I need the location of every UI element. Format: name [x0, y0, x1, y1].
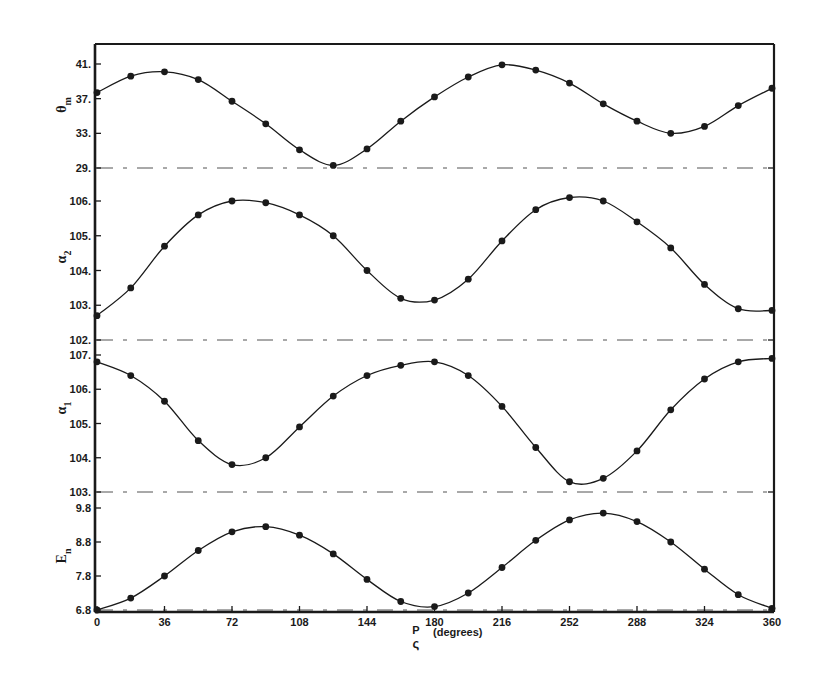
data-point	[701, 376, 708, 383]
data-point	[735, 305, 742, 312]
data-point	[667, 130, 674, 137]
y-tick-label: 106.	[70, 383, 91, 395]
data-point	[431, 94, 438, 101]
data-point	[600, 475, 607, 482]
x-axis-unit: (degrees)	[433, 626, 483, 638]
data-point	[532, 67, 539, 74]
data-point	[94, 89, 101, 96]
stacked-line-chart: 41.37.33.29.θm106.105.104.103.102.α2107.…	[0, 0, 827, 673]
y-tick-label: 103.	[70, 299, 91, 311]
data-point	[127, 73, 134, 80]
data-point	[600, 510, 607, 517]
y-tick-label: 105.	[70, 230, 91, 242]
data-point	[397, 295, 404, 302]
data-point	[735, 102, 742, 109]
data-point	[364, 372, 371, 379]
data-point	[229, 528, 236, 535]
data-point	[499, 403, 506, 410]
data-point	[330, 551, 337, 558]
data-point	[566, 478, 573, 485]
data-point	[634, 518, 641, 525]
data-point	[667, 406, 674, 413]
data-point	[195, 547, 202, 554]
data-point	[566, 194, 573, 201]
y-tick-label: 37.	[76, 93, 91, 105]
x-tick-label: 36	[158, 616, 170, 628]
data-point	[330, 393, 337, 400]
data-point	[364, 267, 371, 274]
data-point	[735, 591, 742, 598]
data-point	[364, 576, 371, 583]
data-point	[667, 245, 674, 252]
data-point	[195, 76, 202, 83]
data-point	[262, 199, 269, 206]
data-point	[127, 284, 134, 291]
x-tick-label: 288	[628, 616, 646, 628]
y-tick-label: 106.	[70, 195, 91, 207]
data-point	[532, 537, 539, 544]
data-point	[161, 243, 168, 250]
y-tick-label: 105.	[70, 418, 91, 430]
data-point	[431, 297, 438, 304]
y-tick-label: 104.	[70, 452, 91, 464]
data-point	[161, 573, 168, 580]
data-point	[532, 444, 539, 451]
data-point	[465, 74, 472, 81]
data-point	[161, 68, 168, 75]
data-point	[296, 532, 303, 539]
data-point	[127, 372, 134, 379]
data-point	[397, 362, 404, 369]
data-point	[701, 123, 708, 130]
data-point	[634, 118, 641, 125]
data-point	[296, 424, 303, 431]
data-point	[229, 98, 236, 105]
x-tick-label: 108	[290, 616, 308, 628]
data-point	[195, 437, 202, 444]
data-point	[600, 198, 607, 205]
data-point	[769, 307, 776, 314]
y-tick-label: 41.	[76, 58, 91, 70]
data-point	[262, 523, 269, 530]
data-point	[465, 276, 472, 283]
data-point	[397, 598, 404, 605]
data-point	[566, 80, 573, 87]
data-point	[94, 358, 101, 365]
data-point	[465, 590, 472, 597]
x-tick-label: 216	[493, 616, 511, 628]
x-tick-label: 324	[695, 616, 714, 628]
data-point	[634, 218, 641, 225]
data-point	[262, 120, 269, 127]
data-point	[161, 398, 168, 405]
data-point	[431, 358, 438, 365]
x-axis-subglyph: ς	[413, 636, 420, 651]
data-point	[701, 281, 708, 288]
data-point	[397, 118, 404, 125]
x-tick-label: 360	[763, 616, 781, 628]
data-point	[364, 146, 371, 153]
data-point	[769, 85, 776, 92]
data-point	[229, 198, 236, 205]
y-tick-label: 9.8	[76, 502, 91, 514]
data-point	[296, 212, 303, 219]
x-tick-label: 72	[226, 616, 238, 628]
data-point	[330, 162, 337, 169]
x-tick-label: 144	[358, 616, 377, 628]
y-tick-label: 104.	[70, 265, 91, 277]
data-point	[600, 100, 607, 107]
data-point	[667, 539, 674, 546]
data-point	[735, 358, 742, 365]
y-tick-label: 103.	[70, 486, 91, 498]
data-point	[499, 61, 506, 68]
data-point	[229, 461, 236, 468]
y-tick-label: 6.8	[76, 604, 91, 616]
data-point	[127, 595, 134, 602]
y-tick-label: 29.	[76, 162, 91, 174]
data-point	[296, 146, 303, 153]
data-point	[262, 454, 269, 461]
data-point	[94, 312, 101, 319]
data-point	[701, 566, 708, 573]
y-tick-label: 107.	[70, 349, 91, 361]
data-point	[634, 448, 641, 455]
data-point	[330, 232, 337, 239]
y-tick-label: 7.8	[76, 570, 91, 582]
